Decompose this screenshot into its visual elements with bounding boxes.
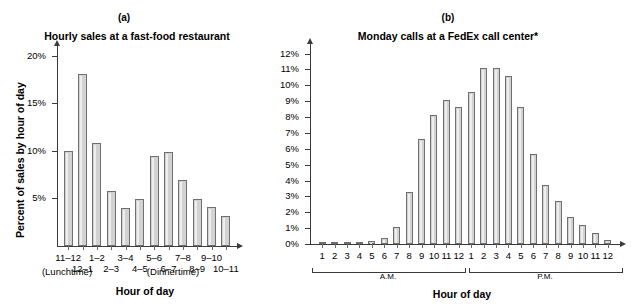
x-axis-tick [384, 244, 385, 248]
panel-b-x-axis-title: Hour of day [342, 288, 582, 300]
y-axis-tick-label: 2% [275, 206, 299, 217]
panel-a-x-axis-title: Hour of day [50, 285, 240, 297]
x-axis-arrow-icon [620, 241, 626, 247]
x-axis-tick [471, 244, 472, 248]
y-axis-tick-label: 10% [20, 145, 46, 156]
x-axis-tick [446, 244, 447, 248]
y-axis-tick [305, 117, 310, 118]
x-axis-tick [459, 244, 460, 248]
y-axis-tick-label: 7% [275, 127, 299, 138]
x-axis-tick [409, 244, 410, 248]
bar [393, 227, 400, 244]
x-axis-tick [335, 244, 336, 248]
x-axis-tick [583, 244, 584, 248]
y-axis-tick [52, 103, 57, 104]
y-axis-arrow-icon [307, 38, 313, 44]
y-axis-tick [52, 151, 57, 152]
panel-a: (a) Hourly sales at a fast-food restaura… [0, 0, 262, 308]
x-axis-tick [372, 244, 373, 248]
bar [193, 199, 202, 246]
bar [430, 115, 437, 244]
y-axis-tick-label: 10% [275, 79, 299, 90]
bar [555, 201, 562, 244]
y-axis-tick [305, 69, 310, 70]
y-axis-tick [305, 244, 310, 245]
bar [505, 76, 512, 244]
y-axis-tick [305, 54, 310, 55]
y-axis-tick-label: 20% [20, 50, 46, 61]
x-axis-tick [169, 246, 170, 250]
y-axis-tick [305, 85, 310, 86]
panel-a-note-dinnertime: (Dinnertime) [128, 266, 218, 277]
y-axis-tick-label: 4% [275, 175, 299, 186]
panel-b: (b) Monday calls at a FedEx call center*… [262, 0, 634, 308]
panel-b-title: Monday calls at a FedEx call center* [262, 30, 634, 42]
y-axis-tick-label: 15% [20, 97, 46, 108]
x-axis-tick [347, 244, 348, 248]
panel-a-plot-area: 5%10%15%20% [57, 46, 243, 246]
y-axis-tick-label: 5% [20, 192, 46, 203]
x-axis-tick [422, 244, 423, 248]
x-axis-tick [359, 244, 360, 248]
x-axis-tick [484, 244, 485, 248]
y-axis-tick-label: 1% [275, 222, 299, 233]
bar [455, 107, 462, 244]
panel-b-plot-area: 0%1%2%3%4%5%6%7%8%9%10%11%12% [310, 44, 626, 244]
x-axis-tick [546, 244, 547, 248]
x-axis-tick [97, 246, 98, 250]
x-axis-tick [595, 244, 596, 248]
y-axis-tick [52, 56, 57, 57]
bar [78, 74, 87, 246]
y-axis-tick-label: 11% [275, 63, 299, 74]
x-axis-arrow-icon [237, 243, 243, 249]
y-axis-tick [305, 181, 310, 182]
x-axis-tick [571, 244, 572, 248]
y-axis-tick-label: 9% [275, 95, 299, 106]
bar [542, 185, 549, 244]
x-axis-tick [140, 246, 141, 250]
y-axis-tick [305, 165, 310, 166]
x-axis-tick [397, 244, 398, 248]
y-axis-tick [305, 196, 310, 197]
bar [64, 151, 73, 246]
x-axis-tick [496, 244, 497, 248]
y-axis-tick [305, 133, 310, 134]
x-axis-tick [508, 244, 509, 248]
bar [418, 139, 425, 244]
x-axis-tick [212, 246, 213, 250]
y-axis-tick [305, 149, 310, 150]
y-axis-line [310, 44, 311, 244]
y-axis-arrow-icon [54, 40, 60, 46]
bar [480, 68, 487, 244]
y-axis-tick-label: 5% [275, 159, 299, 170]
y-axis-tick-label: 0% [275, 238, 299, 249]
panel-a-note-lunchtime: (Lunchtime) [22, 266, 112, 277]
x-axis-tick [558, 244, 559, 248]
bar [579, 225, 586, 244]
bar [150, 156, 159, 246]
y-axis-tick [52, 198, 57, 199]
bar [92, 143, 101, 246]
x-axis-tick [322, 244, 323, 248]
y-axis-tick-label: 12% [275, 48, 299, 59]
panel-b-note-pm: P.M. [469, 272, 621, 281]
x-axis-tick [83, 246, 84, 250]
bar [567, 217, 574, 244]
y-axis-tick-label: 6% [275, 143, 299, 154]
x-axis-line [310, 244, 620, 245]
y-axis-line [57, 46, 58, 246]
panel-a-letter: (a) [24, 12, 224, 23]
x-axis-tick [154, 246, 155, 250]
bar [107, 191, 116, 246]
panel-b-letter: (b) [262, 12, 634, 23]
bar [178, 180, 187, 246]
bar [530, 154, 537, 244]
x-axis-tick [183, 246, 184, 250]
x-axis-line [57, 246, 237, 247]
x-axis-tick [226, 246, 227, 250]
bar [406, 192, 413, 244]
panel-b-note-am: A.M. [312, 272, 464, 281]
x-axis-tick [521, 244, 522, 248]
x-axis-tick [126, 246, 127, 250]
y-axis-tick [305, 228, 310, 229]
